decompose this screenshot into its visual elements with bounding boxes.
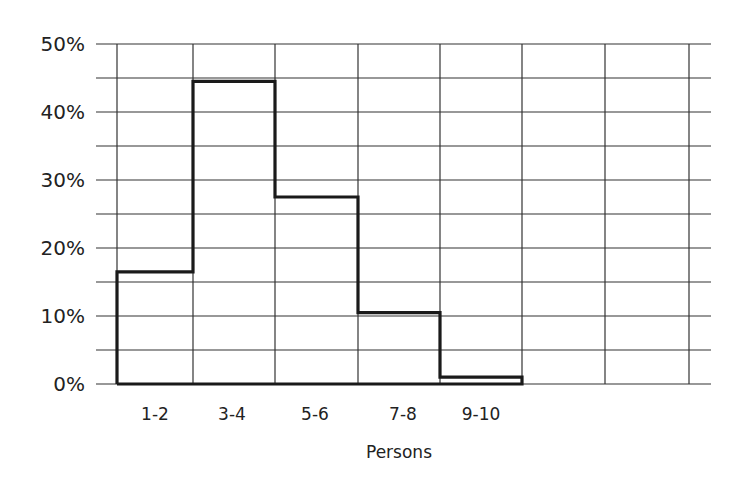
grid-lines (96, 44, 711, 384)
y-tick-label: 0% (0, 372, 85, 396)
y-tick-label: 20% (0, 236, 85, 260)
x-tick-label: 5-6 (280, 404, 350, 424)
x-tick-label: 3-4 (197, 404, 267, 424)
y-tick-label: 10% (0, 304, 85, 328)
x-tick-label: 1-2 (120, 404, 190, 424)
y-tick-label: 40% (0, 100, 85, 124)
y-tick-label: 50% (0, 32, 85, 56)
x-axis-title: Persons (339, 442, 459, 462)
step-bars (117, 81, 522, 384)
x-tick-label: 7-8 (368, 404, 438, 424)
histogram-outline (117, 81, 522, 384)
y-tick-label: 30% (0, 168, 85, 192)
x-tick-label: 9-10 (446, 404, 516, 424)
